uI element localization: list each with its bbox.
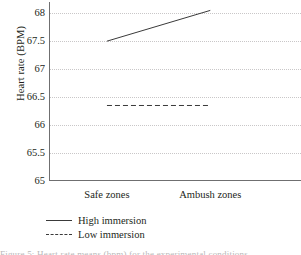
- legend-label: Low immersion: [78, 229, 145, 240]
- x-axis-tick-label: Safe zones: [84, 189, 129, 200]
- cropped-caption-text: Figure 5: Heart rate means (bpm) for the…: [0, 249, 301, 255]
- legend-line-swatch: [46, 214, 72, 226]
- y-axis-tick-label: 67.5: [1, 36, 45, 47]
- y-axis-tick-label: 68: [1, 8, 45, 19]
- legend-item: High immersion: [46, 213, 266, 227]
- legend-line-swatch: [46, 228, 72, 240]
- y-axis-tick-label: 66: [1, 120, 45, 131]
- x-axis-tick-label: Ambush zones: [179, 189, 241, 200]
- y-axis-tick-label: 65.5: [1, 148, 45, 159]
- series-layer: [49, 2, 301, 181]
- legend-item: Low immersion: [46, 227, 266, 241]
- legend-label: High immersion: [78, 215, 147, 226]
- chart-legend: High immersionLow immersion: [46, 213, 266, 241]
- y-axis-tick-label: 67: [1, 64, 45, 75]
- figure-heart-rate-line-chart: Heart rate (BPM) 6565.56666.56767.568 Sa…: [0, 0, 301, 255]
- series-line-high-immersion: [107, 10, 210, 41]
- y-axis-tick-label: 66.5: [1, 92, 45, 103]
- plot-area: 6565.56666.56767.568 Safe zonesAmbush zo…: [49, 2, 301, 181]
- y-axis-tick-label: 65: [1, 176, 45, 187]
